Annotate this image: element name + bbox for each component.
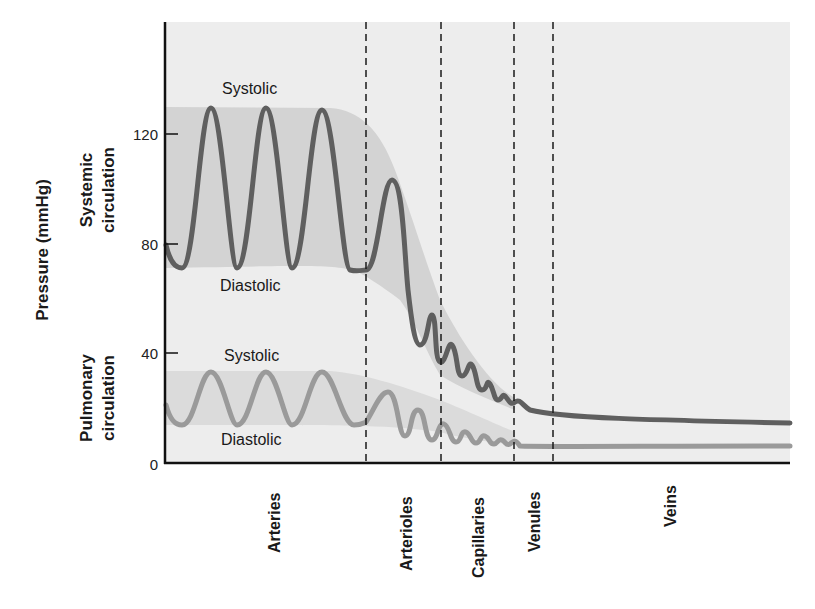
x-label-veins: Veins: [662, 485, 679, 527]
systemic-systolic-label: Systolic: [222, 80, 277, 97]
x-label-venules: Venules: [526, 491, 543, 552]
systemic-circulation-label: Systemic circulation: [77, 147, 118, 233]
pulmonary-label-line2: circulation: [99, 355, 118, 441]
pulmonary-systolic-label: Systolic: [224, 347, 279, 364]
x-label-arterioles: Arterioles: [398, 496, 415, 571]
x-label-capillaries: Capillaries: [470, 497, 487, 578]
y-tick-label-80: 80: [141, 236, 158, 253]
pulmonary-label-line1: Pulmonary: [77, 354, 96, 442]
y-tick-label-120: 120: [133, 126, 158, 143]
systemic-diastolic-label: Diastolic: [220, 277, 280, 294]
systemic-label-line2: circulation: [99, 147, 118, 233]
y-tick-label-40: 40: [141, 345, 158, 362]
y-axis-title: Pressure (mmHg): [33, 179, 52, 321]
blood-pressure-chart: 120 80 40 0 Systolic Diastolic Systolic …: [0, 0, 815, 609]
y-tick-label-0: 0: [150, 456, 158, 473]
pulmonary-circulation-label: Pulmonary circulation: [77, 354, 118, 442]
pulmonary-diastolic-label: Diastolic: [221, 431, 281, 448]
systemic-label-line1: Systemic: [77, 153, 96, 228]
x-label-arteries: Arteries: [266, 492, 283, 553]
